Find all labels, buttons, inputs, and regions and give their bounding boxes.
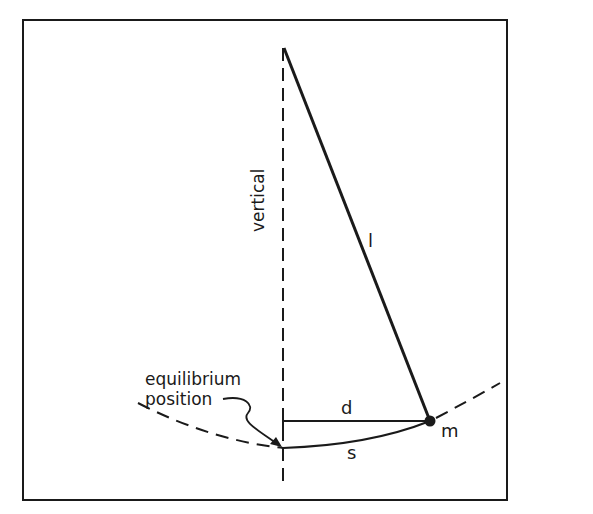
label-mass-m: m [441,420,459,441]
label-displacement-d: d [341,397,352,418]
equilibrium-arrow [223,398,280,446]
arrowhead-icon [270,437,282,447]
arc-s [283,421,430,448]
swing-path-arc-right [436,383,500,418]
pendulum-bob [425,416,436,427]
label-position: position [145,389,212,409]
label-vertical: vertical [248,169,268,232]
pendulum-diagram: vertical l d s m equilibrium position [0,0,593,514]
label-equilibrium: equilibrium [145,369,241,389]
label-arc-s: s [347,442,356,463]
diagram-frame [23,20,507,500]
label-length-l: l [368,230,373,251]
swing-path-arc-left [138,403,283,448]
pendulum-string [284,48,430,421]
